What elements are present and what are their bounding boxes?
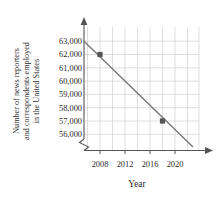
x-axis-arrowhead [205,147,213,154]
y-axis-break-symbol [80,139,89,151]
data-point-marker [160,118,165,123]
chart-figure: Number of news reporters and corresponde… [0,0,221,202]
y-axis-arrowhead [81,17,88,25]
y-axis [80,17,89,151]
x-axis-title: Year [128,180,145,189]
x-axis [84,147,213,154]
grid-vertical [88,27,200,150]
data-point-marker [97,52,102,57]
plot-area [0,0,221,202]
